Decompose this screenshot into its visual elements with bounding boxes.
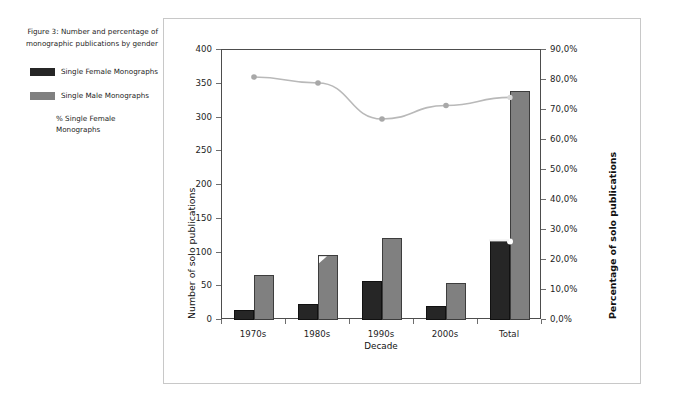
right-axis-tick-label: 70,0% (550, 104, 602, 114)
plot-area (221, 49, 541, 319)
right-axis-tick-label: 0,0% (550, 314, 602, 324)
chart-legend: Single Female Monographs Single Male Mon… (8, 67, 158, 135)
right-axis-tick (541, 139, 546, 140)
bottom-axis-tick (413, 319, 414, 324)
bar-female (490, 240, 510, 320)
left-axis-tick-label: 350 (168, 78, 212, 88)
right-axis-tick (541, 49, 546, 50)
bottom-axis-tick (477, 319, 478, 324)
figure-caption: Figure 3: Number and percentage of monog… (8, 26, 158, 49)
left-axis-tick-label: 50 (168, 280, 212, 290)
left-axis-tick-label: 200 (168, 179, 212, 189)
left-axis-tick-label: 400 (168, 44, 212, 54)
right-axis-title: Percentage of solo publications (607, 152, 618, 319)
bottom-axis-tick-label: 2000s (413, 329, 477, 339)
right-axis-tick-label: 20,0% (550, 254, 602, 264)
legend-item-percent: % Single Female Monographs (8, 114, 158, 135)
bar-female (362, 281, 382, 320)
bottom-axis-tick-label: 1990s (349, 329, 413, 339)
legend-item-male: Single Male Monographs (8, 91, 158, 102)
percent-line-marker (315, 80, 321, 86)
legend-label-percent: % Single Female Monographs (56, 114, 158, 135)
bottom-axis-tick-label: Total (477, 329, 541, 339)
bottom-axis-tick-label: 1980s (285, 329, 349, 339)
right-axis-tick (541, 199, 546, 200)
right-axis-tick-label: 30,0% (550, 224, 602, 234)
bar-male (510, 91, 530, 320)
right-axis-tick (541, 79, 546, 80)
bottom-axis-tick-label: 1970s (221, 329, 285, 339)
chart-frame: Number of solo publications Percentage o… (163, 18, 641, 384)
legend-swatch-male (30, 92, 55, 100)
bar-male (318, 255, 338, 320)
right-axis-tick-label: 40,0% (550, 194, 602, 204)
right-axis-tick-label: 90,0% (550, 44, 602, 54)
bottom-axis-tick (221, 319, 222, 324)
right-axis-tick-label: 50,0% (550, 164, 602, 174)
bar-male (382, 238, 402, 320)
legend-label-female: Single Female Monographs (61, 67, 158, 78)
percent-line (254, 77, 510, 119)
bar-female (426, 306, 446, 320)
bottom-axis-tick (349, 319, 350, 324)
legend-swatch-female (30, 68, 55, 76)
percent-line-marker (251, 74, 257, 80)
left-axis-tick-label: 300 (168, 112, 212, 122)
percent-line-marker (443, 103, 449, 109)
left-axis-tick-label: 0 (168, 314, 212, 324)
bar-female (298, 304, 318, 320)
legend-item-female: Single Female Monographs (8, 67, 158, 78)
caption-legend-block: Figure 3: Number and percentage of monog… (8, 26, 158, 148)
right-axis-tick (541, 289, 546, 290)
right-axis-tick-label: 80,0% (550, 74, 602, 84)
bottom-axis-tick (541, 319, 542, 324)
left-axis-tick-label: 100 (168, 247, 212, 257)
right-axis-tick (541, 109, 546, 110)
left-axis-tick-label: 250 (168, 145, 212, 155)
bottom-axis-tick (285, 319, 286, 324)
right-axis-tick-label: 60,0% (550, 134, 602, 144)
right-axis-tick (541, 169, 546, 170)
bar-male (446, 283, 466, 320)
legend-label-male: Single Male Monographs (61, 91, 149, 102)
percent-line-marker (379, 116, 385, 122)
bar-female (234, 310, 254, 320)
right-axis-tick-label: 10,0% (550, 284, 602, 294)
left-axis-tick-label: 150 (168, 213, 212, 223)
bar-male (254, 275, 274, 320)
right-axis-tick (541, 229, 546, 230)
plot-wrapper: Number of solo publications Percentage o… (164, 19, 642, 385)
right-axis-tick (541, 259, 546, 260)
bottom-axis-title: Decade (221, 341, 541, 351)
